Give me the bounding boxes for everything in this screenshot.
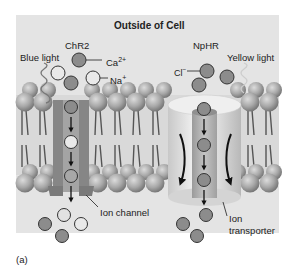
panel-label: (a) <box>16 255 28 265</box>
figure-title: Outside of Cell <box>114 21 185 31</box>
calcium-ion <box>64 76 78 90</box>
chloride-symbol: Cl <box>174 68 183 78</box>
calcium-label: Ca2+ <box>106 56 126 68</box>
ion-channel-label: Ion channel <box>100 208 149 218</box>
sodium-ion <box>51 66 65 80</box>
ion-transporter-label-line2: transporter <box>229 226 275 236</box>
sodium-label: Na+ <box>110 74 126 86</box>
calcium-charge: 2+ <box>118 56 126 63</box>
nphr-label: NpHR <box>193 41 219 51</box>
sodium-charge: + <box>122 74 126 81</box>
chloride-ion <box>220 70 234 84</box>
ion-transporter-label-line1: Ion <box>229 214 242 224</box>
calcium-ion <box>72 53 86 67</box>
chloride-charge: − <box>183 66 187 73</box>
sodium-symbol: Na <box>110 75 122 86</box>
blue-light-label: Blue light <box>20 53 59 63</box>
sodium-ion <box>86 71 100 85</box>
chloride-ion <box>200 64 214 78</box>
chloride-label: Cl− <box>174 67 186 78</box>
optogenetics-figure: Outside of Cell ChR2 Blue light Ca2+ Na+… <box>0 0 292 268</box>
yellow-light-label: Yellow light <box>227 53 274 63</box>
calcium-symbol: Ca <box>106 57 118 68</box>
chloride-ion <box>192 78 206 92</box>
chr2-label: ChR2 <box>65 41 89 51</box>
